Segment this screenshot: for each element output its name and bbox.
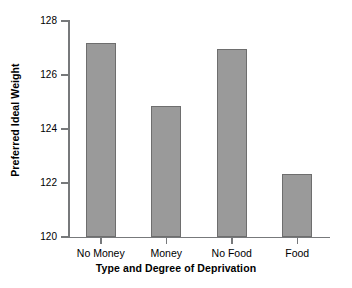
bar-chart: Preferred Ideal Weight 120122124126128 N…	[0, 0, 352, 288]
bar	[282, 174, 312, 237]
x-axis-tick-mark	[100, 238, 102, 244]
y-axis-tick-mark	[61, 236, 68, 238]
y-axis-tick-label: 120	[17, 232, 57, 242]
y-axis-tick-mark	[61, 20, 68, 22]
x-axis-tick-mark	[166, 238, 168, 244]
y-axis-tick-mark	[61, 128, 68, 130]
x-axis-tick-mark	[297, 238, 299, 244]
y-axis-tick-mark	[61, 182, 68, 184]
bar	[86, 43, 116, 237]
x-axis-tick-mark	[231, 238, 233, 244]
y-axis-line	[68, 20, 70, 238]
x-axis-tick-label: Food	[252, 247, 342, 259]
y-axis-tick-label: 128	[17, 16, 57, 26]
y-axis-tick-label: 122	[17, 178, 57, 188]
y-axis-tick-label: 124	[17, 124, 57, 134]
x-axis-title: Type and Degree of Deprivation	[0, 262, 352, 274]
y-axis-title: Preferred Ideal Weight	[0, 0, 30, 240]
y-axis-tick-label: 126	[17, 70, 57, 80]
y-axis-title-text: Preferred Ideal Weight	[9, 63, 21, 176]
bar	[217, 49, 247, 237]
bar	[151, 106, 181, 237]
y-axis-tick-mark	[61, 74, 68, 76]
